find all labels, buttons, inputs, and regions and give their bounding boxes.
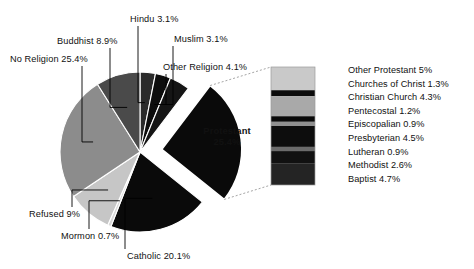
- bar-segment-christian-church[interactable]: [271, 96, 315, 116]
- slice-label-other-religion: Other Religion 4.1%: [163, 62, 247, 72]
- legend-item: Episcopalian 0.9%: [348, 118, 474, 132]
- legend-item: Churches of Christ 1.3%: [348, 78, 474, 92]
- bar-segment-baptist[interactable]: [271, 163, 315, 185]
- bar-segment-churches-of-christ[interactable]: [271, 90, 315, 96]
- legend-item: Methodist 2.6%: [348, 159, 474, 173]
- bar-segment-lutheran[interactable]: [271, 147, 315, 151]
- slice-label-muslim: Muslim 3.1%: [174, 34, 228, 44]
- pie-slice-group: [60, 72, 242, 232]
- slice-label-hindu: Hindu 3.1%: [130, 14, 179, 24]
- bar-segment-methodist[interactable]: [271, 151, 315, 163]
- protestant-stacked-bar: [271, 67, 315, 185]
- slice-label-refused: Refused 9%: [29, 209, 80, 219]
- bar-segment-other-protestant[interactable]: [271, 67, 315, 90]
- legend-item: Pentecostal 1.2%: [348, 105, 474, 119]
- protestant-legend: Other Protestant 5%Churches of Christ 1.…: [348, 64, 474, 186]
- bar-segment-pentecostal[interactable]: [271, 116, 315, 122]
- legend-item: Other Protestant 5%: [348, 64, 474, 78]
- slice-label-mormon: Mormon 0.7%: [61, 231, 119, 241]
- legend-item: Presbyterian 4.5%: [348, 132, 474, 146]
- slice-label-no-religion: No Religion 25.4%: [10, 54, 88, 64]
- bar-segment-episcopalian[interactable]: [271, 122, 315, 126]
- center-label-title: Protestant: [203, 125, 250, 136]
- legend-item: Lutheran 0.9%: [348, 146, 474, 160]
- pie-chart-figure: Hindu 3.1% Muslim 3.1% Buddhist 8.9% No …: [0, 0, 474, 269]
- slice-label-buddhist: Buddhist 8.9%: [57, 36, 118, 46]
- bar-segment-presbyterian[interactable]: [271, 126, 315, 147]
- slice-label-catholic: Catholic 20.1%: [127, 251, 190, 261]
- center-label-value: 25.4%: [213, 136, 240, 147]
- legend-item: Christian Church 4.3%: [348, 91, 474, 105]
- legend-item: Baptist 4.7%: [348, 173, 474, 187]
